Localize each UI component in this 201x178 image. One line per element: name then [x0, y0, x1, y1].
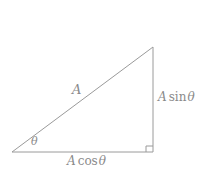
- adjacent-side-function: cos: [78, 154, 98, 168]
- opposite-side-variable: θ: [187, 90, 194, 104]
- triangle-drawing: [0, 0, 201, 178]
- angle-theta-label: θ: [31, 136, 38, 147]
- adjacent-side-label: Acosθ: [67, 155, 106, 167]
- opposite-side-amplitude: A: [158, 90, 167, 104]
- opposite-side-function: sin: [169, 90, 187, 104]
- opposite-side-label: Asinθ: [158, 91, 195, 103]
- hypotenuse-label: A: [72, 83, 81, 96]
- right-angle-marker-icon: [146, 146, 153, 152]
- adjacent-side-amplitude: A: [67, 154, 76, 168]
- adjacent-side-variable: θ: [99, 154, 106, 168]
- trigonometry-figure: A θ Asinθ Acosθ: [0, 0, 201, 178]
